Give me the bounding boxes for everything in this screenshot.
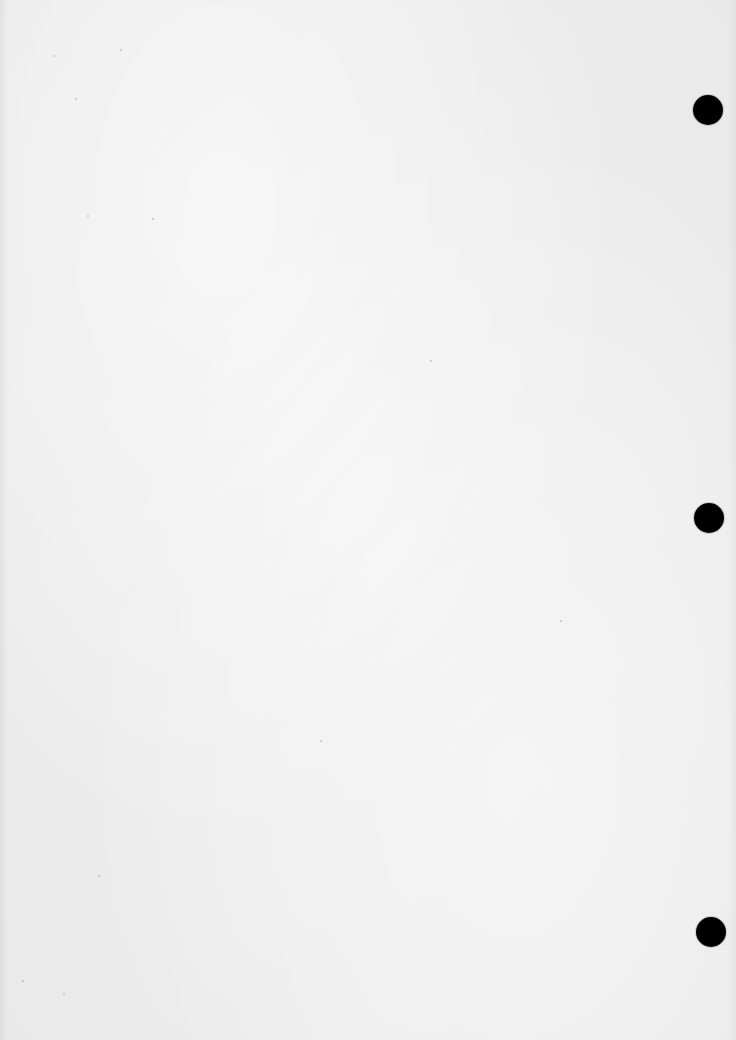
punch-hole-2 (694, 503, 724, 533)
left-edge-shadow (0, 0, 8, 1040)
paper-speck (63, 993, 65, 995)
paper-speck (430, 360, 432, 362)
right-edge-shadow (728, 0, 736, 1040)
paper-speck (22, 980, 24, 982)
paper-speck (152, 218, 154, 220)
punch-hole-3 (696, 917, 726, 947)
paper-speck (87, 215, 89, 217)
paper-speck (560, 620, 562, 622)
paper-speck (320, 740, 322, 742)
paper-speck (120, 49, 122, 51)
paper-speck (53, 55, 55, 57)
scanned-page (0, 0, 736, 1040)
paper-speck (98, 875, 100, 877)
punch-hole-1 (693, 95, 723, 125)
paper-speck (75, 98, 77, 100)
